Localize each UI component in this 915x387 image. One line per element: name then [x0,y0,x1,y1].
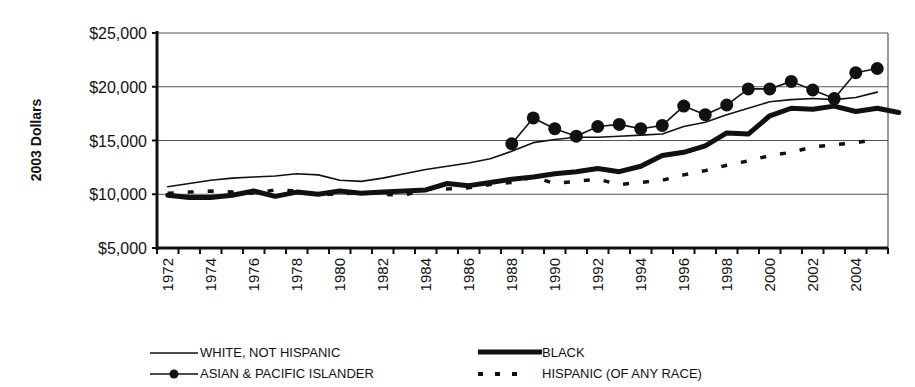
x-axis-tick-labels: 1972197419761978198019821984198619881990… [159,258,864,291]
x-tick-label: 1984 [417,258,434,291]
data-point-marker [634,122,647,135]
data-point-marker [828,92,841,105]
data-point-marker [677,100,690,113]
x-tick-label: 1972 [159,258,176,291]
x-tick-label: 1980 [331,258,348,291]
x-tick-label: 1982 [374,258,391,291]
data-point-marker [871,62,884,75]
x-tick-label: 1998 [718,258,735,291]
data-point-marker [505,137,518,150]
legend-item-asian: ASIAN & PACIFIC ISLANDER [150,366,374,381]
dashed-line-icon [478,368,542,380]
y-tick-label: $15,000 [89,133,147,150]
data-point-marker [849,66,862,79]
thin-line-icon [150,348,198,358]
x-tick-label: 1988 [503,258,520,291]
data-point-marker [527,111,540,124]
data-point-marker [548,122,561,135]
x-tick-label: 1996 [675,258,692,291]
y-tick-label: $5,000 [98,240,147,257]
legend-label: WHITE, NOT HISPANIC [200,345,340,360]
data-series [168,62,899,198]
axes [152,31,888,254]
x-tick-label: 1986 [460,258,477,291]
circle-marker-line-icon [150,368,198,380]
data-point-marker [720,99,733,112]
x-tick-label: 1978 [288,258,305,291]
x-tick-label: 2004 [847,258,864,291]
legend-label: ASIAN & PACIFIC ISLANDER [200,366,374,381]
legend-item-hispanic: HISPANIC (OF ANY RACE) [478,366,702,381]
series-line-white-not-hispanic [168,92,878,187]
thick-line-icon [478,348,542,358]
data-point-marker [763,82,776,95]
x-tick-label: 1974 [202,258,219,291]
y-tick-label: $20,000 [89,79,147,96]
data-point-marker [742,82,755,95]
data-point-marker [699,108,712,121]
x-tick-label: 1976 [245,258,262,291]
legend-label: BLACK [542,345,585,360]
line-chart: $5,000$10,000$15,000$20,000$25,000 19721… [0,0,915,320]
y-tick-label: $10,000 [89,186,147,203]
data-point-marker [785,75,798,88]
data-point-marker [806,83,819,96]
x-tick-label: 2002 [804,258,821,291]
y-tick-label: $25,000 [89,25,147,42]
x-tick-label: 1994 [632,258,649,291]
x-tick-label: 1992 [589,258,606,291]
legend-label: HISPANIC (OF ANY RACE) [542,366,702,381]
y-axis-label: 2003 Dollars [28,99,44,182]
data-point-marker [613,118,626,131]
data-point-marker [656,119,669,132]
x-tick-label: 2000 [761,258,778,291]
y-axis-tick-labels: $5,000$10,000$15,000$20,000$25,000 [89,25,147,257]
data-point-marker [570,130,583,143]
legend-item-black: BLACK [478,345,585,360]
legend-item-white: WHITE, NOT HISPANIC [150,345,340,360]
data-point-marker [591,120,604,133]
x-tick-label: 1990 [546,258,563,291]
